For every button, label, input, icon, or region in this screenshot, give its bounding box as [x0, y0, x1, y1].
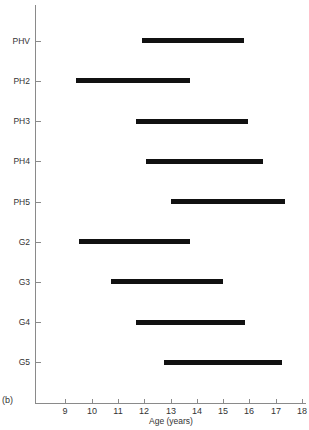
x-tick-label: 17: [266, 406, 286, 416]
y-tick-label: G5: [0, 357, 30, 367]
y-tick-label: G4: [0, 317, 30, 327]
panel-label: (b): [2, 395, 13, 405]
y-axis: [35, 5, 36, 404]
y-tick-label: G2: [0, 237, 30, 247]
x-tick: [118, 399, 119, 404]
x-tick-label: 9: [55, 406, 75, 416]
y-tick-label: PH3: [0, 116, 30, 126]
range-bar-ph2: [76, 78, 190, 83]
y-tick-label: PH4: [0, 156, 30, 166]
x-tick: [249, 399, 250, 404]
x-tick: [144, 399, 145, 404]
range-bar-ph4: [146, 159, 263, 164]
y-tick: [36, 242, 41, 243]
y-tick: [36, 282, 41, 283]
x-tick-label: 13: [161, 406, 181, 416]
x-tick: [276, 399, 277, 404]
y-tick: [36, 161, 41, 162]
x-tick-label: 14: [187, 406, 207, 416]
y-tick: [36, 202, 41, 203]
range-bar-g4: [136, 320, 245, 325]
x-axis-title: Age (years): [149, 416, 193, 426]
range-bar-phv: [142, 38, 245, 43]
y-tick: [36, 362, 41, 363]
y-tick-label: PH5: [0, 197, 30, 207]
x-tick-label: 12: [134, 406, 154, 416]
y-tick: [36, 41, 41, 42]
x-tick-label: 10: [82, 406, 102, 416]
x-tick: [197, 399, 198, 404]
y-tick-label: PH2: [0, 76, 30, 86]
x-tick-label: 16: [239, 406, 259, 416]
x-tick-label: 18: [292, 406, 309, 416]
x-tick: [171, 399, 172, 404]
age-range-chart: PHVPH2PH3PH4PH5G2G3G4G5 9101112131415161…: [0, 0, 309, 430]
y-tick-label: G3: [0, 277, 30, 287]
y-tick: [36, 81, 41, 82]
range-bar-g5: [164, 360, 282, 365]
range-bar-g2: [79, 239, 191, 244]
x-tick: [65, 399, 66, 404]
y-tick: [36, 322, 41, 323]
x-tick: [302, 399, 303, 404]
range-bar-ph5: [171, 199, 285, 204]
x-tick: [223, 399, 224, 404]
y-tick: [36, 121, 41, 122]
x-tick-label: 15: [213, 406, 233, 416]
range-bar-g3: [111, 279, 223, 284]
range-bar-ph3: [136, 119, 248, 124]
y-tick-label: PHV: [0, 36, 30, 46]
x-tick-label: 11: [108, 406, 128, 416]
x-tick: [92, 399, 93, 404]
